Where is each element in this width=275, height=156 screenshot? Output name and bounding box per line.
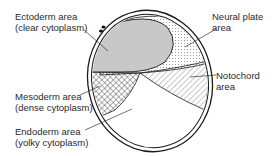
label-mesoderm: Mesoderm area (dense cytoplasm) — [15, 91, 93, 113]
label-neural-plate: Neural plate area — [212, 11, 263, 33]
label-ectoderm-line2: (clear cytoplasm) — [15, 22, 87, 33]
dot-marker — [102, 26, 106, 29]
label-ectoderm: Ectoderm area (clear cytoplasm) — [15, 11, 87, 33]
label-neural-plate-line2: area — [212, 22, 263, 33]
label-notochord-line2: area — [216, 81, 260, 92]
label-mesoderm-line2: (dense cytoplasm) — [15, 102, 93, 113]
label-endoderm-line2: (yolky cytoplasm) — [15, 137, 88, 148]
label-neural-plate-line1: Neural plate — [212, 11, 263, 22]
dot-marker — [99, 30, 103, 33]
label-mesoderm-line1: Mesoderm area — [15, 91, 93, 102]
label-notochord: Notochord area — [216, 70, 260, 92]
label-endoderm: Endoderm area (yolky cytoplasm) — [15, 126, 88, 148]
label-ectoderm-line1: Ectoderm area — [15, 11, 87, 22]
label-notochord-line1: Notochord — [216, 70, 260, 81]
label-endoderm-line1: Endoderm area — [15, 126, 88, 137]
